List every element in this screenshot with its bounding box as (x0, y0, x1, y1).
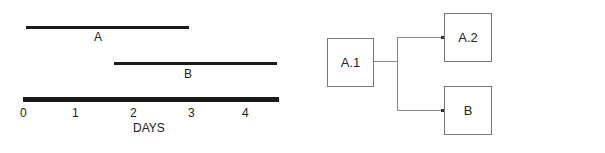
node-a2: A.2 (444, 13, 492, 62)
axis-label: DAYS (133, 122, 165, 134)
node-b: B (444, 86, 492, 135)
node-a1: A.1 (327, 38, 374, 87)
connector-vertical (397, 37, 398, 111)
arrow-head-icon (441, 109, 444, 112)
tick-1: 1 (72, 107, 79, 119)
tick-3: 3 (188, 107, 195, 119)
task-label-a: A (94, 31, 102, 43)
days-axis (23, 97, 279, 102)
tick-0: 0 (20, 107, 27, 119)
tick-4: 4 (242, 107, 249, 119)
connector-out (374, 61, 398, 62)
task-bar-a (26, 26, 189, 29)
connector-to-b (397, 110, 443, 111)
arrow-head-icon (441, 36, 444, 39)
task-bar-b (114, 62, 277, 65)
task-label-b: B (184, 68, 192, 80)
connector-to-a2 (397, 37, 443, 38)
tick-2: 2 (130, 107, 137, 119)
